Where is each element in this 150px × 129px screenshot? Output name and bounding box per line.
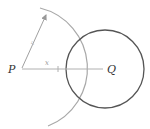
label-x: x (45, 59, 49, 67)
label-p: P (7, 63, 16, 76)
radius-arrow (22, 15, 46, 68)
diagram-canvas: P Q x r (0, 0, 150, 129)
arc-around-p (40, 8, 87, 126)
label-q: Q (107, 63, 116, 76)
